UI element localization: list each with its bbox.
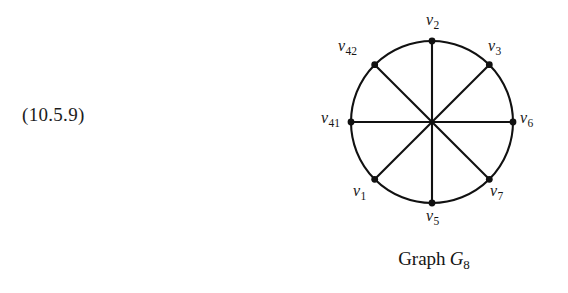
vertex-label-v6: v6 [520,110,533,126]
vertex-label-v7: v7 [490,183,503,199]
vertex-dot-v6 [510,119,517,126]
vertex-dot-v42 [371,61,378,68]
graph-figure: v2 v3 v6 v7 v5 v1 v41 v42 GraphG8 [300,0,568,293]
vertex-label-v1: v1 [353,183,366,199]
vertex-dot-v5 [429,200,436,207]
vertex-dot-v3 [486,61,493,68]
equation-number: (10.5.9) [22,104,85,126]
vertex-label-v5: v5 [426,208,439,224]
vertex-dot-v1 [371,176,378,183]
caption-text: Graph [398,248,445,269]
vertex-label-v3: v3 [488,38,501,54]
vertex-dot-v2 [429,38,436,45]
vertex-label-v2: v2 [426,12,439,28]
vertex-dot-v41 [348,119,355,126]
vertex-label-v42: v42 [338,38,356,54]
figure-caption: GraphG8 [300,248,568,270]
figure-page: (10.5.9) v2 [0,0,568,293]
caption-graph-symbol: G8 [450,248,470,269]
vertex-label-v41: v41 [321,110,339,126]
